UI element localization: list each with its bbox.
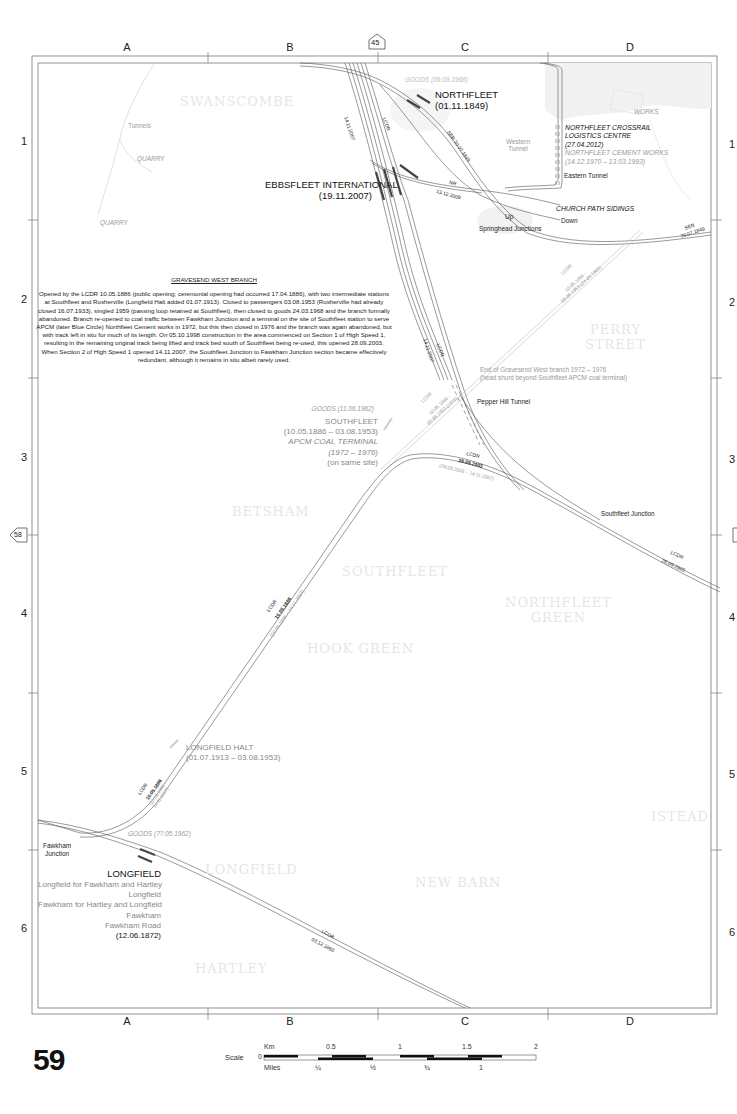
grid-row-6-right: 6 bbox=[729, 926, 735, 938]
grid-row-4-left: 4 bbox=[21, 607, 27, 619]
longfield-former-name-3: Fawkham for Hartley and Longfield bbox=[38, 900, 161, 910]
label-down: Down bbox=[561, 217, 578, 224]
place-swanscombe: SWANSCOMBE bbox=[180, 95, 294, 110]
adjacent-page-north[interactable]: 45 bbox=[371, 39, 379, 48]
note-body: Opened by the LCDR 10.05.1886 (public op… bbox=[36, 290, 392, 364]
longfield-former-name-2: Longfield bbox=[38, 890, 161, 900]
label-pepper-hill-tunnel: Pepper Hill Tunnel bbox=[477, 398, 530, 405]
end-of-branch-line-2: (head shunt beyond Southfleet APCM coal … bbox=[480, 374, 627, 382]
scale-miles-label: Miles bbox=[264, 1064, 280, 1071]
station-longfield-name: LONGFIELD bbox=[38, 868, 161, 880]
scale-km-1: 1 bbox=[398, 1043, 402, 1050]
longfield-goods: GOODS (??.05.1962) bbox=[128, 830, 191, 837]
grid-col-a-bottom: A bbox=[117, 1015, 137, 1027]
station-longfield-halt-name: LONGFIELD HALT bbox=[186, 743, 280, 753]
place-longfield: LONGFIELD bbox=[205, 863, 298, 878]
apcm-coal-terminal-dates: (1972 – 1976) bbox=[260, 448, 378, 458]
label-eastern-tunnel: Eastern Tunnel bbox=[564, 172, 608, 179]
station-longfield: LONGFIELD Longfield for Fawkham and Hart… bbox=[38, 868, 161, 941]
station-southfleet: SOUTHFLEET (10.05.1886 – 03.08.1953) APC… bbox=[260, 417, 378, 468]
place-perry-street: PERRYSTREET bbox=[585, 323, 646, 353]
grid-row-2-right: 2 bbox=[729, 296, 735, 308]
label-western-tunnel: Western Tunnel bbox=[503, 138, 533, 153]
northfleet-goods: GOODS (09.09.1968) bbox=[405, 76, 468, 83]
grid-row-5-right: 5 bbox=[729, 768, 735, 780]
crossrail-line-1: NORTHFLEET CROSSRAIL bbox=[565, 124, 668, 132]
grid-row-1-right: 1 bbox=[729, 138, 735, 150]
grid-row-1-left: 1 bbox=[21, 135, 27, 147]
place-northfleet: NORTHFLEET bbox=[505, 596, 612, 611]
scale-mile-half: ½ bbox=[370, 1064, 376, 1071]
fawkham-junction-line-1: Fawkham bbox=[43, 842, 71, 850]
grid-row-3-left: 3 bbox=[21, 451, 27, 463]
grid-col-c-top: C bbox=[455, 41, 475, 53]
longfield-former-name-1: Longfield for Fawkham and Hartley bbox=[38, 880, 161, 890]
place-southfleet: SOUTHFLEET bbox=[342, 565, 448, 580]
end-of-branch-note: End of Gravesend West branch 1972 – 1976… bbox=[480, 366, 627, 383]
scale-mile-1: 1 bbox=[479, 1064, 483, 1071]
southfleet-goods: GOODS (11.06.1962) bbox=[290, 405, 374, 412]
grid-col-d-top: D bbox=[620, 41, 640, 53]
grid-row-6-left: 6 bbox=[21, 922, 27, 934]
scale-mile-three-quarter: ¾ bbox=[424, 1064, 430, 1071]
label-church-path-sidings: CHURCH PATH SIDINGS bbox=[556, 205, 634, 213]
railway-map bbox=[0, 0, 737, 1114]
cement-works-dates: (14.12.1970 – 13.03.1993) bbox=[565, 158, 668, 166]
station-longfield-halt-dates: (01.07.1913 – 03.08.1953) bbox=[186, 753, 280, 763]
station-longfield-dates: (12.06.1872) bbox=[38, 931, 161, 941]
label-quarry-1: QUARRY bbox=[137, 155, 165, 162]
end-of-branch-line-1: End of Gravesend West branch 1972 – 1976 bbox=[480, 366, 627, 374]
crossrail-date: (27.04.2012) bbox=[565, 141, 668, 149]
scale-label: Scale bbox=[225, 1053, 244, 1062]
scale-mile-quarter: ¼ bbox=[315, 1064, 321, 1071]
adjacent-page-west[interactable]: 58 bbox=[14, 531, 22, 539]
place-northfleet-green: NORTHFLEETGREEN bbox=[505, 596, 612, 626]
crossrail-line-2: LOGISTICS CENTRE bbox=[565, 132, 668, 140]
scale-zero: 0 bbox=[258, 1053, 262, 1060]
station-longfield-halt: LONGFIELD HALT (01.07.1913 – 03.08.1953) bbox=[186, 743, 280, 763]
grid-row-5-left: 5 bbox=[21, 765, 27, 777]
southfleet-same-site-note: (on same site) bbox=[260, 458, 378, 468]
scale-km-2: 2 bbox=[534, 1043, 538, 1050]
grid-row-2-left: 2 bbox=[21, 293, 27, 305]
station-northfleet-dates: (01.11.1849) bbox=[435, 101, 498, 112]
gravesend-west-branch-note: GRAVESEND WEST BRANCH Opened by the LCDR… bbox=[36, 276, 392, 364]
grid-col-c-bottom: C bbox=[455, 1015, 475, 1027]
label-fawkham-junction: Fawkham Junction bbox=[43, 842, 71, 859]
label-tunnels: Tunnels bbox=[128, 122, 151, 129]
grid-row-3-right: 3 bbox=[729, 453, 735, 465]
place-hartley: HARTLEY bbox=[195, 962, 268, 977]
label-works: WORKS bbox=[634, 108, 659, 115]
station-ebbsfleet: EBBSFLEET INTERNATIONAL(19.11.2007) bbox=[265, 180, 372, 202]
place-perry: PERRY bbox=[585, 323, 646, 338]
fawkham-junction-line-2: Junction bbox=[43, 850, 71, 858]
station-northfleet: NORTHFLEET(01.11.1849) bbox=[435, 90, 498, 112]
grid-col-d-bottom: D bbox=[620, 1015, 640, 1027]
grid-col-b-top: B bbox=[280, 41, 300, 53]
longfield-former-name-5: Fawkham Road bbox=[38, 921, 161, 931]
place-istead: ISTEAD bbox=[651, 810, 709, 825]
grid-col-a-top: A bbox=[117, 41, 137, 53]
scale-km-0-5: 0.5 bbox=[326, 1043, 336, 1050]
grid-row-4-right: 4 bbox=[729, 611, 735, 623]
place-hook-green: HOOK GREEN bbox=[307, 642, 414, 657]
place-new-barn: NEW BARN bbox=[415, 876, 501, 891]
label-up: Up bbox=[505, 213, 513, 220]
page-number: 59 bbox=[33, 1043, 64, 1077]
station-southfleet-dates: (10.05.1886 – 03.08.1953) bbox=[260, 427, 378, 437]
place-street: STREET bbox=[585, 338, 646, 353]
place-green: GREEN bbox=[505, 611, 612, 626]
cement-works: NORTHFLEET CEMENT WORKS bbox=[565, 149, 668, 157]
label-southfleet-junction: Southfleet Junction bbox=[601, 510, 655, 517]
place-betsham: BETSHAM bbox=[232, 505, 310, 520]
apcm-coal-terminal: APCM COAL TERMINAL bbox=[260, 437, 378, 447]
scale-bar bbox=[264, 1055, 536, 1060]
label-springhead-junctions: Springhead Junctions bbox=[479, 225, 542, 232]
label-quarry-2: QUARRY bbox=[100, 219, 128, 226]
note-title: GRAVESEND WEST BRANCH bbox=[36, 276, 392, 284]
station-ebbsfleet-dates: (19.11.2007) bbox=[265, 191, 372, 202]
crossrail-logistics-centre: NORTHFLEET CROSSRAIL LOGISTICS CENTRE (2… bbox=[565, 124, 668, 166]
station-southfleet-name: SOUTHFLEET bbox=[260, 417, 378, 427]
scale-km-label: Km bbox=[264, 1043, 275, 1050]
grid-col-b-bottom: B bbox=[280, 1015, 300, 1027]
